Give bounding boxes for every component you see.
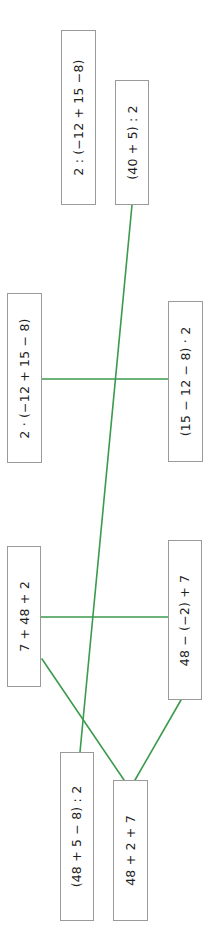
expression-box-8[interactable]: 48 + 2 + 7 bbox=[113, 780, 148, 921]
expression-label: 48 − (−2) + 7 bbox=[178, 574, 193, 665]
expression-box-4[interactable]: (15 − 12 − 8) · 2 bbox=[168, 301, 203, 462]
expression-box-1[interactable]: 2 : (−12 + 15 −8) bbox=[61, 30, 96, 205]
expression-box-3[interactable]: 2 · (−12 + 15 − 8) bbox=[7, 293, 42, 463]
connector-b6-b8 bbox=[135, 700, 181, 780]
connection-lines bbox=[0, 0, 215, 944]
expression-label: (48 + 5 − 8) : 2 bbox=[70, 786, 85, 888]
expression-box-2[interactable]: (40 + 5) : 2 bbox=[115, 80, 149, 205]
expression-label: 48 + 2 + 7 bbox=[123, 815, 138, 886]
expression-box-5[interactable]: 7 + 48 + 2 bbox=[7, 546, 41, 687]
expression-label: 2 : (−12 + 15 −8) bbox=[71, 59, 86, 175]
expression-label: 2 · (−12 + 15 − 8) bbox=[17, 318, 32, 438]
expression-label: (15 − 12 − 8) · 2 bbox=[178, 327, 193, 437]
expression-label: 7 + 48 + 2 bbox=[17, 581, 32, 652]
expression-label: (40 + 5) : 2 bbox=[125, 105, 140, 180]
expression-box-6[interactable]: 48 − (−2) + 7 bbox=[168, 540, 202, 700]
expression-box-7[interactable]: (48 + 5 − 8) : 2 bbox=[60, 752, 94, 921]
connector-b2-b7 bbox=[80, 205, 132, 752]
